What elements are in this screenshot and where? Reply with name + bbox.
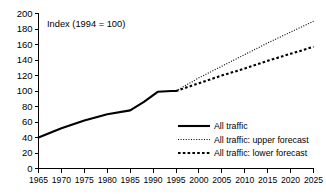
y-tick-label: 140 [17,54,33,65]
y-tick-label: 60 [22,116,33,127]
x-tick-label: 1995 [166,175,185,185]
legend-label: All traffic: upper forecast [214,135,309,145]
x-tick-label: 1965 [29,175,48,185]
y-tick-label: 120 [17,70,33,81]
x-tick-label: 2025 [304,175,323,185]
y-tick-label: 40 [22,132,33,143]
x-tick-label: 2020 [281,175,300,185]
y-tick-label: 200 [17,8,33,19]
legend-label: All traffic: lower forecast [214,148,308,158]
y-tick-label: 80 [22,101,33,112]
x-tick-label: 2015 [258,175,277,185]
y-tick-label: 180 [17,23,33,34]
y-tick-label: 0 [27,163,32,174]
x-tick-label: 1990 [144,175,163,185]
x-tick-label: 2005 [212,175,231,185]
chart-background [0,0,326,195]
x-tick-label: 1985 [121,175,140,185]
x-tick-label: 2010 [235,175,254,185]
legend-label: All traffic [214,121,248,131]
y-tick-label: 160 [17,39,33,50]
chart-container: 020406080100120140160180200 196519701975… [0,0,326,195]
x-tick-label: 1975 [75,175,94,185]
y-tick-label: 20 [22,147,33,158]
x-tick-label: 1980 [98,175,117,185]
x-tick-label: 1970 [52,175,71,185]
line-chart: 020406080100120140160180200 196519701975… [0,0,326,195]
index-annotation: Index (1994 = 100) [47,19,125,29]
y-tick-label: 100 [17,85,33,96]
x-tick-label: 2000 [189,175,208,185]
